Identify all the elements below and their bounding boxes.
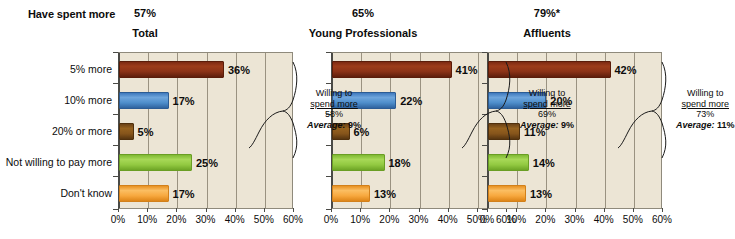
x-axis-tick (206, 208, 207, 212)
bar-value-label: 18% (389, 157, 411, 169)
x-axis-label: 60% (652, 214, 672, 226)
bar-value-label: 5% (138, 126, 154, 138)
x-axis-label: 40% (438, 214, 458, 226)
y-axis-tick (326, 52, 331, 53)
category-label: Not willing to pay more (6, 156, 112, 168)
callout-average: Average: 11% (676, 120, 735, 131)
callout-line-2: spend more (676, 99, 735, 110)
callout-average: Average: 9% (307, 120, 361, 131)
x-axis-label: 50% (623, 214, 643, 226)
category-axis: 5% more10% more20% or moreNot willing to… (0, 52, 112, 209)
bar (119, 123, 134, 140)
panel-header-value: 57% (50, 6, 240, 21)
chart-panel-young-professionals: 41%22%6%18%13%0%10%20%30%40%50%60%Willin… (331, 52, 506, 209)
panel-header-affluents: 79%* Affluents (452, 6, 642, 41)
x-axis-tick (477, 208, 478, 212)
y-axis-tick (326, 176, 331, 177)
x-axis: 0%10%20%30%40%50%60% (487, 212, 662, 228)
panel-header-value: 65% (268, 6, 458, 21)
callout-line-1: Willing to (520, 88, 574, 99)
y-axis-tick (113, 145, 118, 146)
callout-willing-value: 58% (307, 109, 361, 120)
gridline (236, 53, 237, 208)
x-axis-label: 10% (350, 214, 370, 226)
y-axis-tick (482, 52, 487, 53)
x-axis-label: 40% (594, 214, 614, 226)
x-axis-tick (360, 208, 361, 212)
panel-header-young-professionals: 65% Young Professionals (268, 6, 458, 41)
x-axis-tick (604, 208, 605, 212)
x-axis-tick (331, 208, 332, 212)
willing-to-spend-callout: Willing tospend more69%Average: 9% (520, 88, 574, 130)
panel-header-name: Affluents (452, 25, 642, 41)
y-axis-tick (482, 176, 487, 177)
x-axis-label: 40% (225, 214, 245, 226)
bar (332, 154, 385, 171)
x-axis-label: 30% (195, 214, 215, 226)
bar-value-label: 17% (173, 95, 195, 107)
x-axis-tick (633, 208, 634, 212)
x-axis-tick (389, 208, 390, 212)
x-axis-tick (545, 208, 546, 212)
x-axis-label: 0% (480, 214, 494, 226)
x-axis-tick (235, 208, 236, 212)
y-axis-tick (113, 52, 118, 53)
willing-to-spend-callout: Willing tospend more73%Average: 11% (676, 88, 735, 130)
x-axis-label: 60% (283, 214, 303, 226)
x-axis-label: 10% (137, 214, 157, 226)
bar-value-label: 25% (196, 157, 218, 169)
panel-header-name: Young Professionals (268, 25, 458, 41)
x-axis-tick (516, 208, 517, 212)
category-label: 10% more (64, 94, 112, 106)
bar (488, 185, 526, 202)
callout-line-2: spend more (520, 99, 574, 110)
bar-value-label: 17% (173, 188, 195, 200)
bar-value-label: 13% (374, 188, 396, 200)
bar (119, 61, 224, 78)
y-axis-tick (113, 114, 118, 115)
x-axis-tick (662, 208, 663, 212)
bar (332, 61, 452, 78)
x-axis-tick (419, 208, 420, 212)
callout-willing-value: 73% (676, 109, 735, 120)
y-axis-tick (113, 176, 118, 177)
bar-value-label: 36% (228, 64, 250, 76)
x-axis-label: 50% (254, 214, 274, 226)
x-axis-tick (575, 208, 576, 212)
bar (119, 154, 192, 171)
bar (332, 185, 370, 202)
x-axis-tick (293, 208, 294, 212)
category-label: 20% or more (52, 125, 112, 137)
callout-willing-value: 69% (520, 109, 574, 120)
x-axis-label: 20% (166, 214, 186, 226)
x-axis-tick (176, 208, 177, 212)
x-axis-label: 30% (408, 214, 428, 226)
x-axis: 0%10%20%30%40%50%60% (118, 212, 293, 228)
category-label: Don't know (60, 187, 112, 199)
x-axis-tick (487, 208, 488, 212)
bar (119, 185, 169, 202)
x-axis-tick (264, 208, 265, 212)
panel-header-total: 57% Total (50, 6, 240, 41)
callout-line-1: Willing to (676, 88, 735, 99)
x-axis-label: 0% (111, 214, 125, 226)
x-axis-tick (118, 208, 119, 212)
bar (119, 92, 169, 109)
callout-line-1: Willing to (307, 88, 361, 99)
x-axis-tick (147, 208, 148, 212)
x-axis-label: 0% (324, 214, 338, 226)
panel-header-value: 79%* (452, 6, 642, 21)
category-label: 5% more (70, 63, 112, 75)
callout-line-2: spend more (307, 99, 361, 110)
x-axis-label: 30% (564, 214, 584, 226)
willing-to-spend-callout: Willing tospend more58%Average: 9% (307, 88, 361, 130)
chart-panel-total: 36%17%5%25%17%0%10%20%30%40%50%60%Willin… (118, 52, 293, 209)
y-axis-tick (113, 83, 118, 84)
x-axis-label: 20% (379, 214, 399, 226)
x-axis-label: 10% (506, 214, 526, 226)
panel-header-name: Total (50, 25, 240, 41)
x-axis-tick (448, 208, 449, 212)
callout-average: Average: 9% (520, 120, 574, 131)
bar-value-label: 13% (530, 188, 552, 200)
x-axis-label: 20% (535, 214, 555, 226)
